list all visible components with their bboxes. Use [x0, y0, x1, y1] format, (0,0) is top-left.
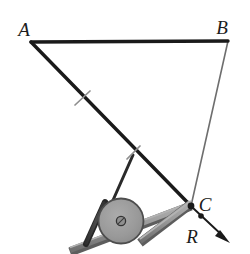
figure-canvas: A B C R [0, 0, 250, 254]
force-label-r: R [185, 226, 198, 247]
vertex-label-c: C [199, 194, 212, 215]
triangle-roller-diagram: A B C R [0, 0, 250, 254]
vertex-label-a: A [16, 19, 30, 40]
vertex-label-b: B [216, 17, 228, 38]
roller-wheel [99, 199, 144, 244]
member-ab [31, 41, 228, 42]
